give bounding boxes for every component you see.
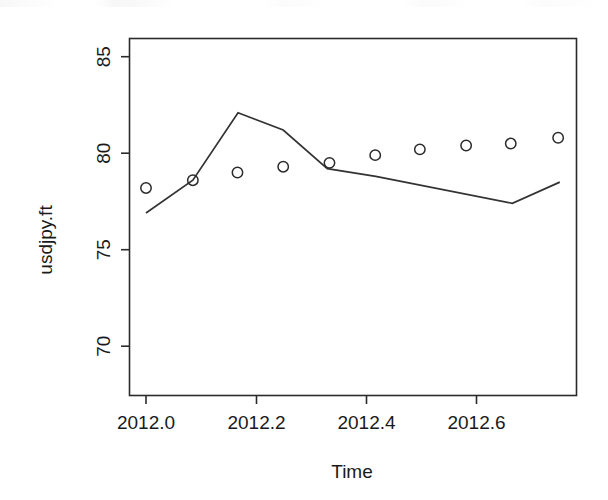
x-tick-label-2012-0: 2012.0: [117, 412, 175, 433]
y-axis-tick-labels: 85 80 75 70: [94, 46, 115, 357]
data-point-marker: [415, 144, 425, 154]
x-axis-ticks: [146, 396, 477, 405]
forecast-line: [146, 113, 560, 213]
data-point-marker: [461, 140, 471, 150]
plot-frame: [130, 39, 577, 396]
data-point-marker: [141, 183, 151, 193]
y-tick-label-85: 85: [94, 46, 115, 67]
x-axis-title: Time: [331, 461, 373, 482]
x-tick-label-2012-6: 2012.6: [447, 412, 505, 433]
usdjpy-forecast-chart: 85 80 75 70 usdjpy.ft 2012.0 2012.2 2012…: [0, 0, 608, 500]
y-axis-ticks: [121, 57, 130, 347]
y-axis-title: usdjpy.ft: [35, 205, 56, 275]
chart-canvas: 85 80 75 70 usdjpy.ft 2012.0 2012.2 2012…: [0, 0, 608, 500]
data-point-marker: [506, 138, 516, 148]
x-tick-label-2012-2: 2012.2: [227, 412, 285, 433]
y-tick-label-80: 80: [94, 143, 115, 164]
data-point-marker: [232, 167, 242, 177]
x-tick-label-2012-4: 2012.4: [337, 412, 396, 433]
data-point-marker: [553, 133, 563, 143]
data-point-marker: [324, 158, 334, 168]
x-axis-tick-labels: 2012.0 2012.2 2012.4 2012.6: [117, 412, 506, 433]
y-tick-label-70: 70: [94, 336, 115, 357]
data-point-marker: [370, 150, 380, 160]
y-tick-label-75: 75: [94, 239, 115, 260]
data-point-marker: [278, 162, 288, 172]
